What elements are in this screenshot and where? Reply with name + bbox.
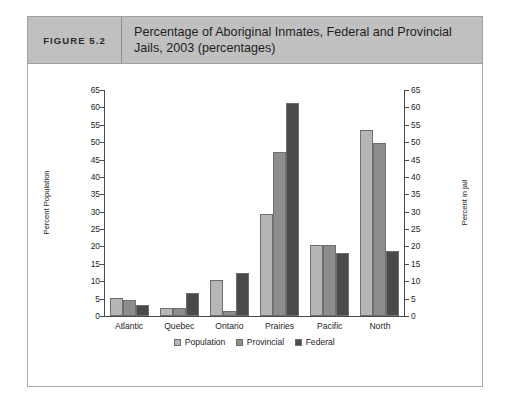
x-axis-category-label: North	[355, 321, 405, 331]
y-axis-left-ticks: 05101520253035404550556065	[72, 65, 100, 325]
figure-header: FIGURE 5.2 Percentage of Aboriginal Inma…	[27, 16, 483, 64]
x-axis-category-label: Quebec	[154, 321, 204, 331]
y-axis-left-tick	[100, 90, 104, 91]
bar-group	[110, 90, 149, 316]
bar-federal-prairies[interactable]	[286, 103, 299, 316]
y-axis-left-tick-label: 15	[78, 260, 100, 268]
figure-title-cell: Percentage of Aboriginal Inmates, Federa…	[122, 17, 482, 63]
y-axis-left-tick-label: 20	[78, 242, 100, 250]
y-axis-left-tick-label: 30	[78, 208, 100, 216]
x-axis-category-label: Pacific	[305, 321, 355, 331]
y-axis-right-tick	[405, 281, 409, 282]
y-axis-right-ticks: 05101520253035404550556065	[411, 65, 439, 325]
y-axis-left-tick	[100, 281, 104, 282]
y-axis-right-tick	[405, 90, 409, 91]
x-axis-category-label: Prairies	[255, 321, 305, 331]
bar-group	[260, 90, 299, 316]
bar-population-ontario[interactable]	[210, 280, 223, 316]
bar-provincial-atlantic[interactable]	[123, 300, 136, 316]
legend-swatch-icon	[295, 339, 302, 346]
y-axis-right-tick	[405, 177, 409, 178]
y-axis-left-tick-label: 55	[78, 121, 100, 129]
y-axis-right-tick-label: 65	[411, 86, 433, 94]
y-axis-right-tick-label: 0	[411, 312, 433, 320]
y-axis-left-tick	[100, 229, 104, 230]
legend-label: Population	[185, 337, 226, 347]
y-axis-right-tick-label: 10	[411, 277, 433, 285]
y-axis-right-tick	[405, 229, 409, 230]
figure-container: FIGURE 5.2 Percentage of Aboriginal Inma…	[0, 0, 514, 403]
y-axis-left-tick-label: 25	[78, 225, 100, 233]
legend-swatch-icon	[236, 339, 243, 346]
bar-group	[310, 90, 349, 316]
y-axis-left-tick-label: 60	[78, 103, 100, 111]
bar-population-quebec[interactable]	[160, 308, 173, 316]
y-axis-right-tick-label: 40	[411, 173, 433, 181]
legend-item-federal[interactable]: Federal	[295, 337, 335, 347]
y-axis-left-tick-label: 40	[78, 173, 100, 181]
y-axis-right-tick	[405, 246, 409, 247]
bar-federal-atlantic[interactable]	[136, 305, 149, 316]
bar-population-prairies[interactable]	[260, 214, 273, 316]
bar-population-pacific[interactable]	[310, 245, 323, 316]
bar-provincial-pacific[interactable]	[323, 245, 336, 316]
bars-layer	[104, 90, 405, 316]
bar-provincial-prairies[interactable]	[273, 152, 286, 316]
y-axis-left-tick-label: 50	[78, 138, 100, 146]
y-axis-right-tick	[405, 316, 409, 317]
y-axis-left-tick-label: 45	[78, 156, 100, 164]
bar-federal-quebec[interactable]	[186, 293, 199, 316]
y-axis-left-tick	[100, 125, 104, 126]
bar-group	[210, 90, 249, 316]
chart-plot-area: Percent Population Percent in jail 05101…	[28, 65, 482, 386]
y-axis-right-tick	[405, 264, 409, 265]
y-axis-left-title: Percent Population	[42, 155, 51, 251]
bar-federal-north[interactable]	[386, 251, 399, 316]
y-axis-left-tick-label: 10	[78, 277, 100, 285]
y-axis-left-tick	[100, 177, 104, 178]
y-axis-right-tick-label: 30	[411, 208, 433, 216]
y-axis-right-tick	[405, 194, 409, 195]
y-axis-right-tick	[405, 212, 409, 213]
y-axis-right-tick-label: 25	[411, 225, 433, 233]
bar-group	[160, 90, 199, 316]
chart-legend: PopulationProvincialFederal	[104, 337, 405, 347]
legend-item-provincial[interactable]: Provincial	[236, 337, 284, 347]
y-axis-right-tick	[405, 125, 409, 126]
x-axis-category-label: Ontario	[204, 321, 254, 331]
y-axis-left-tick-label: 65	[78, 86, 100, 94]
figure-number: FIGURE 5.2	[43, 35, 106, 46]
bar-population-atlantic[interactable]	[110, 298, 123, 316]
y-axis-right-tick-label: 50	[411, 138, 433, 146]
bar-group	[360, 90, 399, 316]
y-axis-right-tick	[405, 160, 409, 161]
legend-label: Provincial	[247, 337, 284, 347]
y-axis-right-tick-label: 45	[411, 156, 433, 164]
bar-population-north[interactable]	[360, 130, 373, 316]
y-axis-left-tick	[100, 246, 104, 247]
bar-federal-ontario[interactable]	[236, 273, 249, 316]
y-axis-right-title: Percent in jail	[460, 155, 469, 251]
y-axis-left-tick	[100, 299, 104, 300]
y-axis-left-tick	[100, 160, 104, 161]
y-axis-right-tick-label: 5	[411, 295, 433, 303]
bar-provincial-ontario[interactable]	[223, 311, 236, 316]
figure-title: Percentage of Aboriginal Inmates, Federa…	[134, 24, 472, 57]
bar-provincial-north[interactable]	[373, 143, 386, 316]
y-axis-right-tick	[405, 299, 409, 300]
x-axis-category-label: Atlantic	[104, 321, 154, 331]
legend-label: Federal	[306, 337, 335, 347]
y-axis-right-tick	[405, 142, 409, 143]
bar-provincial-quebec[interactable]	[173, 308, 186, 316]
y-axis-left-tick	[100, 264, 104, 265]
y-axis-right-tick-label: 55	[411, 121, 433, 129]
legend-swatch-icon	[174, 339, 181, 346]
y-axis-left-tick	[100, 212, 104, 213]
legend-item-population[interactable]: Population	[174, 337, 225, 347]
y-axis-left-tick-label: 35	[78, 190, 100, 198]
y-axis-right-tick-label: 35	[411, 190, 433, 198]
bar-federal-pacific[interactable]	[336, 253, 349, 316]
x-axis-line	[104, 316, 405, 317]
y-axis-left-tick	[100, 194, 104, 195]
y-axis-right-tick-label: 60	[411, 103, 433, 111]
